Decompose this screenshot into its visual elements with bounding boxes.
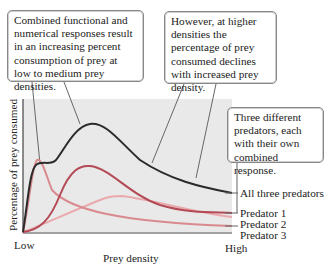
legend-all-three: All three predators: [240, 187, 324, 199]
annotation-right: Three different predators, each with the…: [227, 107, 324, 163]
x-tick-low: Low: [14, 239, 35, 251]
x-tick-high: High: [225, 242, 247, 254]
y-axis-label: Percentage of prey consumed: [7, 90, 19, 240]
x-axis-label: Prey density: [103, 252, 159, 264]
annotation-middle: However, at higher densities the percent…: [164, 11, 277, 84]
annotation-left: Combined functional and numerical respon…: [7, 10, 144, 82]
legend-predator-3: Predator 3: [240, 229, 286, 241]
